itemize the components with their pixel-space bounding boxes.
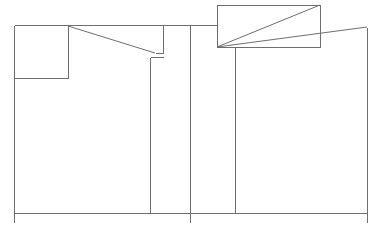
diagonal-upper-left [68,26,155,53]
right-upper-box [218,6,321,48]
notch-step-left [156,26,164,54]
diagram-canvas [0,0,381,234]
diagram-svg [0,0,381,234]
diagonal-right-inner [217,5,320,47]
diagonal-right-outer [217,27,367,47]
